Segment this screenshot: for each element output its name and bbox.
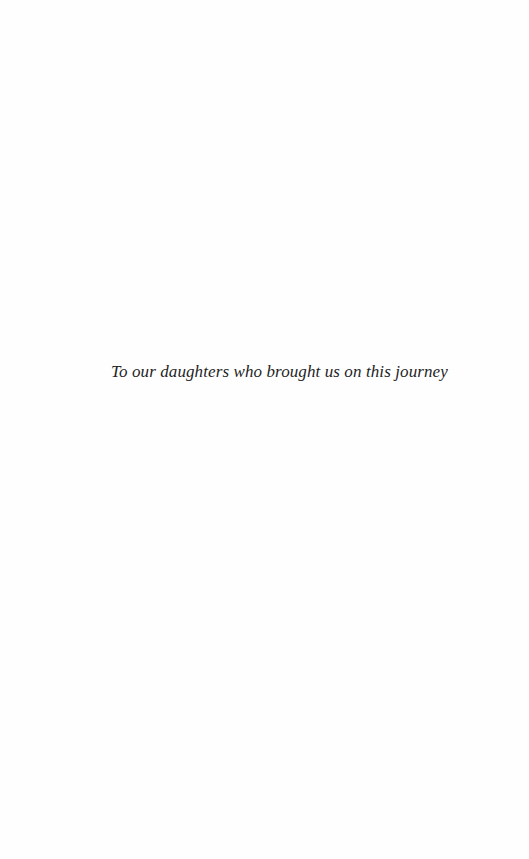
book-page: To our daughters who brought us on this … bbox=[0, 0, 529, 859]
dedication-text: To our daughters who brought us on this … bbox=[0, 362, 529, 382]
